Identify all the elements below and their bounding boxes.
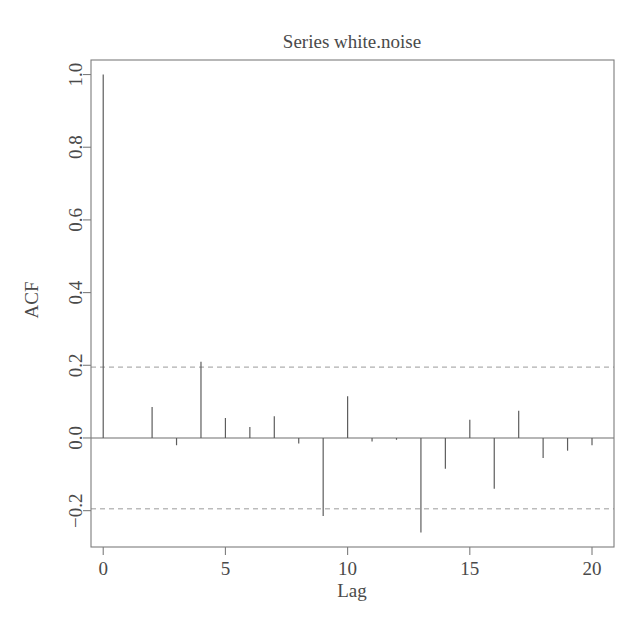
x-tick-label: 5	[221, 558, 231, 579]
x-tick-label: 10	[338, 558, 357, 579]
x-axis-tick-labels: 05101520	[98, 558, 601, 579]
plot-border	[91, 60, 614, 547]
x-tick-label: 20	[583, 558, 602, 579]
y-tick-label: 0.6	[66, 208, 87, 232]
y-axis-title: ACF	[21, 282, 42, 319]
y-tick-label: −0.2	[66, 493, 87, 527]
y-tick-label: 1.0	[66, 63, 87, 87]
x-tick-label: 0	[98, 558, 108, 579]
x-axis-ticks	[103, 547, 592, 555]
plot-frame	[91, 60, 614, 547]
y-tick-label: 0.8	[66, 135, 87, 159]
x-tick-label: 15	[460, 558, 479, 579]
acf-spikes	[103, 75, 592, 533]
y-tick-label: 0.4	[66, 280, 87, 304]
page-title: Series white.noise	[283, 31, 421, 52]
y-tick-label: 0.2	[66, 353, 87, 377]
x-axis-title: Lag	[337, 580, 367, 601]
acf-plot-canvas: Series white.noise ACF Lag −0.20.00.20.4…	[0, 0, 643, 636]
y-tick-label: 0.0	[66, 426, 87, 450]
acf-plot-figure: Series white.noise ACF Lag −0.20.00.20.4…	[0, 0, 643, 636]
y-axis-tick-labels: −0.20.00.20.40.60.81.0	[66, 63, 87, 528]
